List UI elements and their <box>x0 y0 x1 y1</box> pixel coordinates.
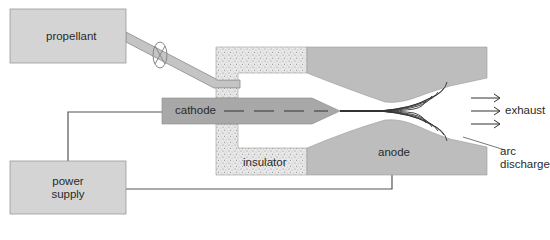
anode-upper <box>307 47 487 102</box>
power-supply-line1: power <box>38 175 98 188</box>
power-supply-label: power supply <box>38 175 98 201</box>
arc-line1: arc <box>500 145 550 158</box>
power-supply-line2: supply <box>38 188 98 201</box>
insulator-label: insulator <box>243 156 286 169</box>
wire-cathode <box>68 112 162 161</box>
arc-line2: discharge <box>500 158 550 171</box>
anode-label: anode <box>378 146 410 159</box>
exhaust-label: exhaust <box>505 104 545 117</box>
arc-discharge-label: arc discharge <box>500 145 550 171</box>
wire-anode <box>126 175 392 189</box>
propellant-label: propellant <box>46 30 97 43</box>
exhaust-arrows <box>471 94 500 128</box>
cathode-label: cathode <box>175 104 216 117</box>
